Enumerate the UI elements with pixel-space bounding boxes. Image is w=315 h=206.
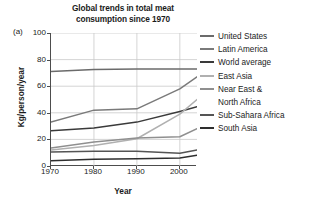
chart-title-line-2: consumption since 1970 — [48, 14, 198, 25]
y-tick-label: 80 — [6, 56, 46, 64]
legend-line-swatch-icon — [200, 75, 214, 77]
legend-item[interactable]: United States — [200, 30, 315, 43]
series-line — [51, 150, 197, 153]
legend-line-swatch-icon — [200, 61, 214, 63]
y-tick-label: 60 — [6, 82, 46, 90]
legend-item-label: United States — [218, 30, 267, 43]
legend-item-label: South Asia — [218, 122, 257, 135]
legend-item-label: Sub-Sahara Africa — [218, 109, 284, 122]
series-line — [51, 100, 197, 151]
legend-line-swatch-icon — [200, 127, 214, 129]
x-tick-label: 1970 — [30, 168, 70, 176]
legend-item-label: East Asia — [218, 70, 252, 83]
y-tick-mark — [47, 113, 50, 114]
y-tick-label: 100 — [6, 29, 46, 37]
series-line — [51, 107, 197, 131]
legend-item-label: World average — [218, 56, 271, 69]
y-tick-mark — [47, 33, 50, 34]
legend-item[interactable]: North Africa — [200, 96, 315, 109]
y-tick-mark — [47, 86, 50, 87]
series-line — [51, 69, 197, 72]
x-tick-mark — [50, 166, 51, 169]
legend-item[interactable]: World average — [200, 56, 315, 69]
legend-line-swatch-icon — [200, 48, 214, 50]
legend-item[interactable]: Near East & — [200, 83, 315, 96]
meat-consumption-chart: Global trends in total meat consumption … — [0, 0, 315, 206]
legend-item-label: Latin America — [218, 43, 268, 56]
chart-title: Global trends in total meat consumption … — [48, 3, 198, 24]
series-line — [51, 77, 197, 122]
legend-item[interactable]: Latin America — [200, 43, 315, 56]
plot-svg — [51, 33, 197, 166]
x-tick-mark — [93, 166, 94, 169]
y-tick-label: 20 — [6, 135, 46, 143]
chart-legend: United StatesLatin AmericaWorld averageE… — [200, 30, 315, 136]
legend-item[interactable]: East Asia — [200, 70, 315, 83]
x-tick-label: 1990 — [116, 168, 156, 176]
y-tick-mark — [47, 60, 50, 61]
legend-item-label: North Africa — [218, 96, 261, 109]
legend-line-swatch-icon — [200, 35, 214, 37]
x-tick-label: 1980 — [73, 168, 113, 176]
series-line — [51, 129, 197, 148]
x-tick-label: 2000 — [159, 168, 199, 176]
legend-item-label: Near East & — [218, 83, 262, 96]
chart-title-line-1: Global trends in total meat — [48, 3, 198, 14]
x-axis-label: Year — [50, 186, 196, 196]
x-tick-mark — [179, 166, 180, 169]
plot-area — [50, 33, 196, 166]
legend-item[interactable]: Sub-Sahara Africa — [200, 109, 315, 122]
series-line — [51, 155, 197, 160]
x-tick-mark — [136, 166, 137, 169]
legend-line-swatch-icon — [200, 114, 214, 116]
legend-item[interactable]: South Asia — [200, 122, 315, 135]
y-tick-mark — [47, 139, 50, 140]
legend-line-swatch-icon — [200, 88, 214, 90]
legend-line-swatch-icon — [200, 101, 214, 103]
y-tick-label: 40 — [6, 109, 46, 117]
